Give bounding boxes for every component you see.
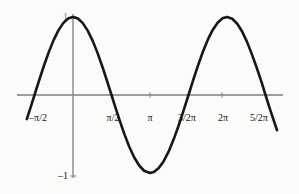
cosine-plot-figure: –π/2 π/2 π 3/2π 2π 5/2π 1 –1: [0, 0, 299, 194]
y-tick-label-one: 1: [56, 12, 68, 22]
plot-canvas: [0, 0, 299, 194]
x-tick-label-five-halves-pi: 5/2π: [250, 113, 268, 123]
x-tick-label-three-halves-pi: 3/2π: [178, 113, 196, 123]
x-tick-label-half-pi: π/2: [107, 113, 120, 123]
x-tick-label-two-pi: 2π: [218, 113, 228, 123]
x-tick-label-neg-half-pi: –π/2: [29, 113, 47, 123]
y-tick-label-neg-one: –1: [48, 171, 68, 181]
x-tick-label-pi: π: [147, 113, 152, 123]
